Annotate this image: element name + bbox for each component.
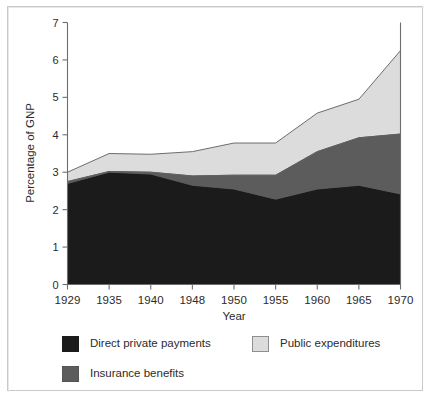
- y-tick-label-4: 4: [52, 129, 58, 141]
- x-tick-labels: 192919351940194819501955196019651970: [55, 294, 414, 306]
- y-tick-labels: 01234567: [52, 17, 58, 291]
- legend-row-top-right: Public expenditures: [252, 336, 380, 352]
- x-tick-label-1935: 1935: [96, 294, 122, 306]
- legend-swatch-icon-direct-private-payments: [62, 336, 79, 352]
- x-tick-label-1960: 1960: [304, 294, 330, 306]
- y-axis-title: Percentage of GNP: [24, 103, 36, 203]
- legend-label-public-expenditures: Public expenditures: [280, 338, 380, 350]
- legend-item-insurance-benefits[interactable]: Insurance benefits: [62, 366, 184, 382]
- area-series-direct-private-payments: [68, 172, 401, 284]
- chart-legend: Direct private payments Public expenditu…: [0, 330, 430, 392]
- legend-label-direct-private-payments: Direct private payments: [90, 338, 211, 350]
- y-tick-label-1: 1: [52, 241, 58, 253]
- x-tick-label-1948: 1948: [179, 294, 205, 306]
- x-tick-label-1940: 1940: [138, 294, 164, 306]
- legend-label-insurance-benefits: Insurance benefits: [90, 368, 184, 380]
- y-tick-label-3: 3: [52, 166, 58, 178]
- x-tick-label-1950: 1950: [221, 294, 247, 306]
- y-tick-label-7: 7: [52, 17, 58, 29]
- x-tick-label-1965: 1965: [346, 294, 372, 306]
- x-tick-label-1929: 1929: [55, 294, 81, 306]
- x-axis-title: Year: [222, 310, 245, 322]
- legend-row-top: Direct private payments: [62, 336, 211, 352]
- y-tick-label-2: 2: [52, 204, 58, 216]
- chart-series-areas: [68, 51, 401, 285]
- y-tick-label-0: 0: [52, 279, 58, 291]
- legend-swatch-icon-insurance-benefits: [62, 366, 79, 382]
- legend-item-direct-private-payments[interactable]: Direct private payments: [62, 336, 211, 352]
- figure-container: 01234567 1929193519401948195019551960196…: [0, 0, 430, 398]
- y-tick-label-5: 5: [52, 91, 58, 103]
- x-tick-label-1955: 1955: [263, 294, 289, 306]
- x-tick-label-1970: 1970: [388, 294, 414, 306]
- legend-row-bottom: Insurance benefits: [62, 366, 184, 382]
- y-tick-label-6: 6: [52, 54, 58, 66]
- legend-swatch-icon-public-expenditures: [252, 336, 269, 352]
- legend-item-public-expenditures[interactable]: Public expenditures: [252, 336, 380, 352]
